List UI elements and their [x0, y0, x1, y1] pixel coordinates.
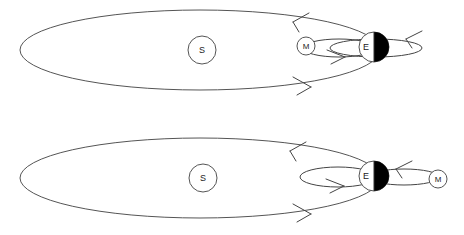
sun-body-top: S — [188, 36, 216, 64]
earth-label-top: E — [363, 42, 369, 52]
moon-orbit-arrow-left-bottom — [326, 179, 344, 193]
sun-label-top: S — [199, 45, 205, 55]
earth-body-bottom: E — [359, 161, 389, 191]
moon-body-bottom: M — [429, 170, 447, 188]
earth-night-shadow-bottom — [374, 161, 389, 191]
earth-label-bottom: E — [363, 171, 369, 181]
earth-body-top: E — [359, 32, 389, 62]
sun-earth-moon-diagram: S M E — [0, 0, 464, 235]
diagram-canvas: S M E — [0, 0, 464, 235]
moon-label-bottom: M — [435, 175, 442, 184]
earth-orbit-arrow-bottom-top — [293, 77, 311, 95]
earth-night-shadow-top — [374, 32, 389, 62]
sun-body-bottom: S — [189, 164, 217, 192]
bottom-panel: S E M — [20, 138, 447, 222]
top-panel: S M E — [20, 10, 422, 95]
sun-label-bottom: S — [200, 173, 206, 183]
moon-body-top: M — [297, 37, 315, 55]
earth-orbit-arrow-bottom-bottom — [293, 204, 311, 222]
moon-label-top: M — [303, 42, 310, 51]
